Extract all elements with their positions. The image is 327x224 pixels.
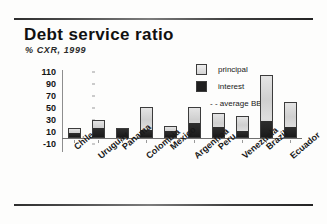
x-axis-tick-mark bbox=[98, 140, 99, 143]
x-axis-tick-mark bbox=[146, 140, 147, 143]
y-axis-tick-label: 50 bbox=[46, 103, 56, 113]
x-axis-tick-mark bbox=[290, 140, 291, 143]
bottom-divider-rule bbox=[14, 204, 313, 206]
y-axis-tick-label: 30 bbox=[46, 115, 56, 125]
y-axis-tick-label: -10 bbox=[43, 139, 56, 149]
chart-title: Debt service ratio bbox=[24, 25, 174, 45]
bar-venezuela bbox=[236, 116, 249, 138]
y-axis-tick-label: 110 bbox=[41, 67, 56, 77]
bar-chile bbox=[68, 128, 81, 138]
y-axis-labels: 1109070503010-10 bbox=[30, 64, 60, 160]
x-axis-tick-mark bbox=[194, 140, 195, 143]
y-axis-tick-label: 90 bbox=[46, 79, 56, 89]
x-axis-labels: ChileUruguayPanamaColombiaMexicoArgentin… bbox=[62, 140, 307, 202]
bar-segment-interest bbox=[237, 131, 248, 137]
y-axis-tick-label: 10 bbox=[46, 127, 56, 137]
x-axis-tick-mark bbox=[242, 140, 243, 143]
y-axis-tick-label: 70 bbox=[46, 91, 56, 101]
top-divider-rule bbox=[14, 18, 313, 20]
chart-subtitle: % CXR, 1999 bbox=[25, 45, 86, 55]
bar-segment-interest bbox=[69, 133, 80, 137]
chart-page: Debt service ratio % CXR, 1999 110907050… bbox=[0, 0, 327, 224]
